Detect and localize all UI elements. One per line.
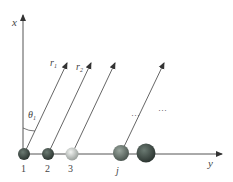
ellipsis-1: ··· — [131, 110, 140, 120]
particle-3 — [66, 148, 79, 161]
ray-3 — [72, 63, 115, 154]
particle-3-label: 3 — [68, 163, 73, 174]
particle-1 — [18, 148, 30, 160]
particle-chain-diagram: x y r1 r2 θ1 ··· ··· 1 2 3 j — [0, 0, 233, 182]
ellipsis-2: ··· — [158, 105, 167, 115]
ray-2-label: r2 — [76, 61, 83, 73]
particle-2 — [42, 148, 54, 160]
ray-2 — [48, 63, 91, 154]
angle-arc — [23, 128, 35, 131]
particle-j — [113, 145, 129, 161]
particle-j-label: j — [114, 165, 119, 176]
x-axis-label: x — [11, 16, 17, 28]
angle-label: θ1 — [28, 109, 36, 121]
y-axis-label: y — [207, 157, 213, 169]
particle-1-label: 1 — [21, 163, 26, 174]
ray-1-label: r1 — [50, 57, 57, 69]
particle-2-label: 2 — [45, 163, 50, 174]
particle-next — [137, 144, 156, 163]
